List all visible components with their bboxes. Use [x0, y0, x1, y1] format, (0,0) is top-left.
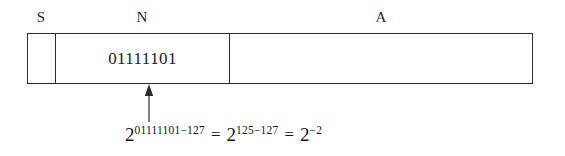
mantissa-field-cell	[230, 34, 532, 83]
formula-equals-2: =	[284, 125, 294, 144]
formula-exponent-2: 125−127	[236, 124, 278, 136]
arrow-head	[145, 84, 153, 96]
formula-base-2: 2	[227, 124, 237, 145]
bit-field-box: 01111101	[27, 33, 533, 84]
field-label-mantissa: A	[229, 10, 533, 25]
sign-field-cell	[28, 34, 56, 83]
exponent-bits-value: 01111101	[108, 50, 177, 67]
exponent-bias-formula: 201111101−127=2125−127=2−2	[125, 124, 322, 146]
formula-exponent-3: −2	[310, 124, 323, 136]
exponent-field-cell: 01111101	[56, 34, 230, 83]
formula-base-3: 2	[300, 124, 310, 145]
field-label-exponent: N	[55, 10, 229, 25]
up-arrow-icon	[142, 84, 156, 122]
formula-exponent-1: 01111101−127	[135, 124, 205, 136]
formula-base-1: 2	[125, 124, 135, 145]
formula-equals-1: =	[211, 125, 221, 144]
field-label-sign: S	[27, 10, 55, 25]
